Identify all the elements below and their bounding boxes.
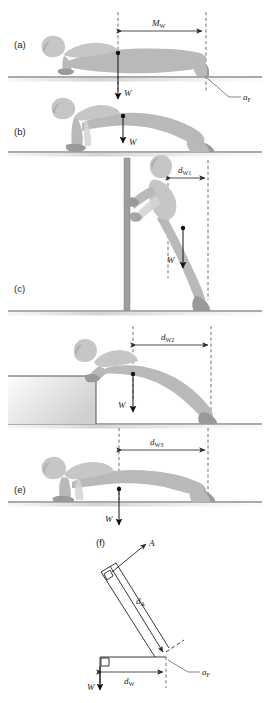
panel-a-com-dot <box>116 51 120 55</box>
panel-d: (d) dW2 <box>8 326 262 429</box>
panel-d-ground-shadow <box>8 425 262 429</box>
panel-a: (a) MW W <box>8 12 262 103</box>
panel-d-distance-label: dW2 <box>161 332 174 343</box>
panel-c-letter: (c) <box>14 283 25 294</box>
panel-f-weight-label: W <box>87 682 96 692</box>
panel-e: (e) dW3 W <box>8 428 262 525</box>
panel-d-com-dot <box>131 372 135 376</box>
panel-f-force-arrow <box>112 544 146 572</box>
panel-f-body-line-left <box>101 572 155 657</box>
panel-b-letter: (b) <box>14 126 26 137</box>
panel-f-force-arm-label: dA <box>136 596 146 607</box>
panel-a-axis-label: aF <box>243 92 252 103</box>
panel-e-letter: (e) <box>14 484 26 495</box>
panel-f-force-arm-arrow <box>110 566 163 652</box>
figure-svg: (a) MW W <box>0 0 274 703</box>
panel-f-right-angle-base <box>101 658 109 666</box>
panel-a-moment-label: MW <box>151 18 166 29</box>
panel-a-weight-label: W <box>124 88 133 98</box>
panel-a-letter: (a) <box>14 39 26 50</box>
panel-b-weight-label: W <box>129 137 138 147</box>
panel-c-distance-label: dW1 <box>178 165 191 176</box>
panel-b: (b) W <box>8 98 262 157</box>
panel-f-axis-leader <box>168 660 200 672</box>
panel-f-weight-arm-label: dW <box>124 676 135 687</box>
panel-e-com-dot <box>117 487 121 491</box>
panel-e-weight-label: W <box>105 514 114 524</box>
panel-b-com-dot <box>121 114 125 118</box>
panel-d-bench-face <box>8 376 96 424</box>
panel-a-ground-shadow <box>8 78 262 82</box>
figure-container: (a) MW W <box>0 0 274 703</box>
panel-a-figure <box>41 36 209 76</box>
panel-d-bench <box>8 376 96 424</box>
panel-f-axis-dash <box>166 640 184 652</box>
panel-b-ground-shadow <box>8 153 262 157</box>
panel-f: (f) A dA dW W <box>87 537 211 692</box>
panel-f-axis-label: aF <box>202 667 211 678</box>
panel-c-weight-label: W <box>167 255 176 265</box>
panel-f-force-label: A <box>148 538 155 548</box>
panel-e-ground-shadow <box>8 503 262 507</box>
panel-c-com-dot <box>181 226 185 230</box>
panel-d-weight-label: W <box>118 400 127 410</box>
panel-c: (c) dW1 <box>8 155 262 316</box>
panel-c-ground-shadow <box>8 312 262 316</box>
panel-c-wall <box>124 158 130 310</box>
panel-e-distance-label: dW3 <box>150 437 163 448</box>
panel-e-figure <box>42 457 215 502</box>
panel-f-letter: (f) <box>96 537 105 548</box>
